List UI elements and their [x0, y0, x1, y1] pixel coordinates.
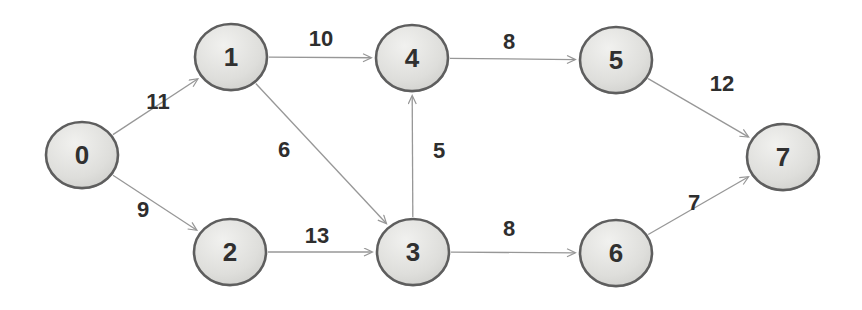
node-label-6: 6: [609, 238, 623, 268]
node-label-3: 3: [406, 237, 420, 267]
node-0: 0: [46, 122, 118, 188]
node-6: 6: [580, 220, 652, 286]
edge-0-2: 9: [113, 175, 197, 230]
edge-weight-label-0-2: 9: [137, 197, 149, 222]
edge-arrow-1-4: [269, 57, 371, 58]
edge-weight-label-5-7: 12: [710, 71, 734, 96]
edge-weight-label-0-1: 11: [146, 89, 169, 114]
node-label-7: 7: [776, 142, 790, 172]
edge-arrow-4-5: [450, 58, 575, 59]
node-label-1: 1: [224, 42, 238, 72]
edge-0-1: 11: [113, 79, 198, 135]
edge-arrow-1-3: [256, 84, 386, 224]
edge-3-4: 5: [412, 96, 445, 217]
edge-5-7: 12: [648, 71, 748, 137]
node-5: 5: [580, 27, 652, 93]
edge-weight-label-6-7: 7: [688, 190, 700, 215]
node-1: 1: [195, 24, 267, 90]
directed-weighted-graph: 1191061358812701234567: [0, 0, 862, 310]
edge-arrow-0-2: [113, 175, 197, 230]
node-label-5: 5: [609, 45, 623, 75]
node-2: 2: [194, 219, 266, 285]
edge-2-3: 13: [268, 223, 372, 252]
edge-1-4: 10: [269, 26, 371, 58]
edge-1-3: 6: [256, 84, 386, 224]
edge-arrow-3-4: [412, 96, 413, 217]
node-label-0: 0: [75, 140, 89, 170]
node-4: 4: [376, 25, 448, 91]
edge-4-5: 8: [450, 29, 575, 60]
node-label-4: 4: [405, 43, 420, 73]
edge-weight-label-3-4: 5: [433, 138, 445, 163]
edge-weight-label-1-3: 6: [278, 137, 290, 162]
node-7: 7: [747, 124, 819, 190]
node-label-2: 2: [223, 237, 237, 267]
edge-weight-label-3-6: 8: [503, 216, 515, 241]
diagram-canvas: 1191061358812701234567: [0, 0, 862, 310]
node-3: 3: [377, 219, 449, 285]
edge-3-6: 8: [451, 216, 575, 253]
edge-weight-label-2-3: 13: [305, 223, 329, 248]
edge-arrow-3-6: [451, 252, 575, 253]
edge-6-7: 7: [648, 177, 748, 234]
edge-weight-label-4-5: 8: [503, 29, 515, 54]
edge-weight-label-1-4: 10: [309, 26, 333, 51]
